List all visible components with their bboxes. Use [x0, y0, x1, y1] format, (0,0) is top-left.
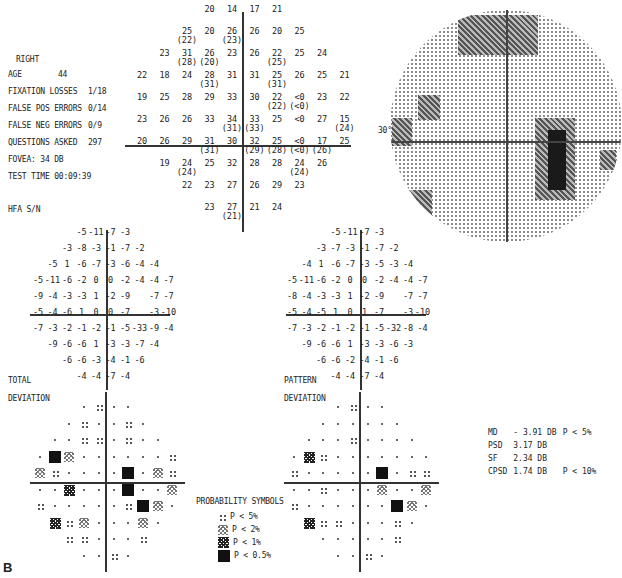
threshold-value: 23	[310, 93, 334, 102]
threshold-value: 31(31)	[198, 137, 222, 155]
td-prob-p5-icon	[110, 552, 118, 560]
td-prob-dot-icon	[94, 534, 104, 544]
pd-prob-dot-icon	[304, 485, 314, 495]
threshold-value: 25	[288, 27, 312, 36]
md-value: - 3.91 DB	[513, 428, 562, 441]
greyscale-v-axis	[506, 10, 508, 242]
threshold-value: 26	[175, 115, 199, 124]
td-prob-p5-icon	[139, 535, 147, 543]
eye-label: RIGHT	[16, 55, 39, 65]
pattern-deviation-value: -6	[382, 356, 406, 365]
threshold-value: 28	[265, 159, 289, 168]
pd-prob-p5-icon	[408, 469, 416, 477]
threshold-value: 25	[288, 49, 312, 58]
td-prob-p5-icon	[124, 436, 132, 444]
pattern-deviation-value: -3	[396, 340, 420, 349]
threshold-value: <0(<0)	[288, 137, 312, 155]
td-prob-p2-icon	[79, 518, 89, 528]
threshold-value: 24	[265, 203, 289, 212]
threshold-value: 26	[288, 71, 312, 80]
threshold-value: 22	[175, 181, 199, 190]
pd-prob-dot-icon	[392, 452, 402, 462]
threshold-value: 32	[220, 159, 244, 168]
legend-item: P < 5%	[218, 510, 284, 523]
threshold-value: 22(22)	[265, 93, 289, 111]
pd-prob-dot-icon	[333, 551, 343, 561]
td-prob-dot-icon	[94, 419, 104, 429]
pd-prob-dot-icon	[348, 518, 358, 528]
threshold-value: 25(22)	[175, 27, 199, 45]
td-prob-dot-icon	[94, 485, 104, 495]
td-prob-dot-icon	[153, 452, 163, 462]
td-prob-p5-icon	[168, 469, 176, 477]
td-prob-dot-icon	[79, 485, 89, 495]
pd-prob-dot-icon	[377, 435, 387, 445]
total-deviation-value: -6	[128, 356, 152, 365]
md-label: MD	[488, 428, 513, 441]
false-pos-label: FALSE POS ERRORS	[8, 104, 82, 114]
degree-30-label: 30°	[378, 126, 392, 136]
td-prob-dot-icon	[64, 501, 74, 511]
pattern-label: PATTERN	[284, 376, 316, 386]
td-prob-p2-icon	[138, 518, 148, 528]
threshold-value: 26(23)	[220, 27, 244, 45]
legend-p5-icon	[218, 513, 226, 521]
threshold-value: 23	[220, 49, 244, 58]
pd-prob-dot-icon	[289, 452, 299, 462]
pd-prob-dot-icon	[304, 501, 314, 511]
threshold-value: 32(29)	[243, 137, 267, 155]
td-prob-p5-icon	[80, 420, 88, 428]
pd-prob-dot-icon	[304, 435, 314, 445]
threshold-value: 27	[220, 181, 244, 190]
pd-prob-dot-icon	[392, 419, 402, 429]
td-prob-p05-icon	[49, 451, 61, 463]
pd-prob-p5-icon	[364, 552, 372, 560]
threshold-value: 20	[130, 137, 154, 146]
td-prob-dot-icon	[94, 501, 104, 511]
deviation-label: DEVIATION	[8, 394, 50, 404]
pd-prob-dot-icon	[333, 468, 343, 478]
total-deviation-value: -4	[142, 260, 166, 269]
td-prob-p2-icon	[64, 452, 74, 462]
legend-p05-icon	[218, 550, 230, 562]
td-prob-dot-icon	[109, 518, 119, 528]
td-prob-p5-icon	[168, 453, 176, 461]
total-label: TOTAL	[8, 376, 31, 386]
td-prob-dot-icon	[109, 402, 119, 412]
pd-prob-dot-icon	[377, 534, 387, 544]
threshold-value: 25	[153, 93, 177, 102]
pd-prob-p5-icon	[334, 519, 342, 527]
pd-prob-dot-icon	[318, 419, 328, 429]
false-neg-value: 0/9	[88, 121, 102, 131]
td-prob-dot-icon	[35, 452, 45, 462]
age-value: 44	[58, 70, 67, 80]
td-prob-dot-icon	[94, 551, 104, 561]
threshold-value: 14	[220, 5, 244, 14]
td-prob-dot-icon	[79, 402, 89, 412]
legend-item: P < 1%	[218, 536, 284, 549]
legend-title: PROBABILITY SYMBOLS	[196, 497, 284, 507]
pattern-deviation-value: -2	[382, 244, 406, 253]
td-prob-dot-icon	[79, 452, 89, 462]
pd-prob-dot-icon	[289, 485, 299, 495]
td-prob-p2-icon	[35, 468, 45, 478]
threshold-value: 20	[198, 27, 222, 36]
threshold-value: 20	[265, 27, 289, 36]
test-time: TEST TIME 00:09:39	[8, 172, 91, 182]
td-prob-p5-icon	[80, 535, 88, 543]
cpsd-value: 1.74 DB	[513, 467, 562, 480]
td-prob-dot-icon	[35, 485, 45, 495]
threshold-value: 25	[265, 115, 289, 124]
td-prob-dot-icon	[153, 435, 163, 445]
hfa-sn: HFA S/N	[8, 205, 40, 215]
td-prob-p5-icon	[95, 403, 103, 411]
td-prob-dot-icon	[64, 419, 74, 429]
pd-prob-dot-icon	[363, 485, 373, 495]
threshold-value: 26(20)	[198, 49, 222, 67]
threshold-value: 33	[198, 115, 222, 124]
total-deviation-value: -7	[157, 292, 181, 301]
td-prob-p1-icon	[50, 518, 61, 529]
threshold-value: 17(26)	[310, 137, 334, 155]
pd-prob-p5-icon	[319, 519, 327, 527]
threshold-value: 22(25)	[265, 49, 289, 67]
